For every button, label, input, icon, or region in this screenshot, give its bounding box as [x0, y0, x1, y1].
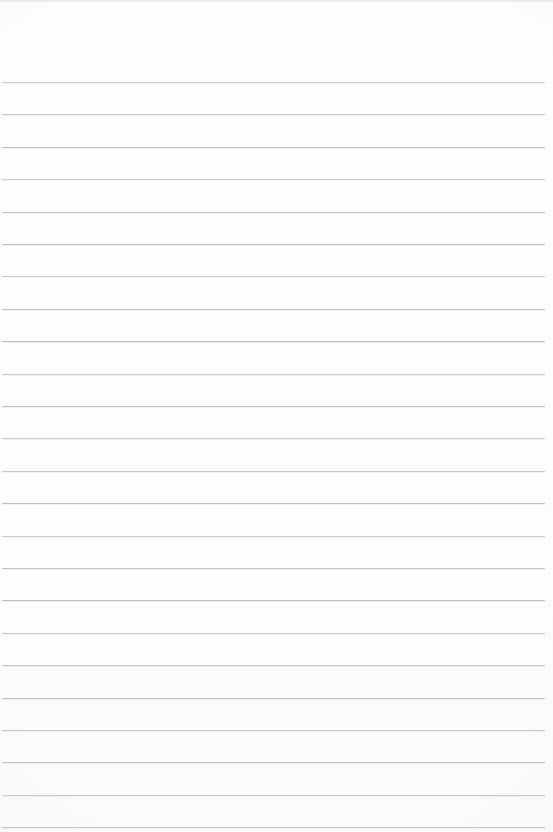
rule-line [2, 665, 545, 666]
rule-line [2, 698, 545, 699]
rule-line [2, 341, 545, 342]
ruling-lines-layer [0, 0, 553, 832]
rule-line [2, 536, 545, 537]
rule-line [2, 471, 545, 472]
rule-line [2, 827, 545, 828]
rule-line [2, 730, 545, 731]
rule-line [2, 82, 545, 83]
rule-line [2, 374, 545, 375]
rule-line [2, 503, 545, 504]
rule-line [2, 600, 545, 601]
rule-line [2, 795, 545, 796]
rule-line [2, 179, 545, 180]
rule-line [2, 276, 545, 277]
rule-line [2, 633, 545, 634]
rule-line [2, 212, 545, 213]
rule-line [2, 762, 545, 763]
rule-line [2, 114, 545, 115]
rule-line [2, 406, 545, 407]
ruled-paper-page: Blank Ruled Notebook Paper [0, 0, 553, 832]
rule-line [2, 309, 545, 310]
rule-line [2, 147, 545, 148]
rule-line [2, 568, 545, 569]
rule-line [2, 438, 545, 439]
rule-line [2, 244, 545, 245]
